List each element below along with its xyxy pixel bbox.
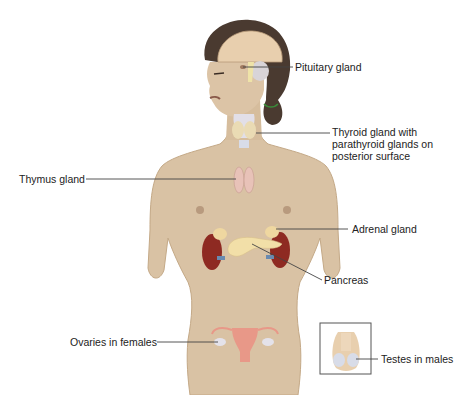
label-pancreas: Pancreas	[324, 274, 368, 286]
renal-vessel-right	[266, 255, 274, 259]
label-adrenal-gland: Adrenal gland	[352, 223, 417, 235]
renal-vessel-left	[217, 256, 225, 260]
label-testes: Testes in males	[381, 353, 453, 365]
adrenal-right	[265, 226, 279, 238]
nipple-right	[283, 206, 291, 214]
endocrine-diagram: Pituitary gland Thyroid gland with parat…	[0, 0, 471, 395]
label-pituitary-gland: Pituitary gland	[295, 61, 362, 73]
testes-illustration	[332, 332, 359, 371]
label-thyroid-gland: Thyroid gland with parathyroid glands on…	[332, 126, 433, 162]
label-thymus-gland: Thymus gland	[19, 173, 85, 185]
nipple-left	[196, 206, 204, 214]
eye	[214, 73, 224, 74]
label-ovaries: Ovaries in females	[70, 336, 157, 348]
ovary-right	[262, 338, 274, 346]
adrenal-left	[213, 228, 227, 240]
